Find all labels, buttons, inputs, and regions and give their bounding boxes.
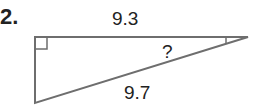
top-side-label: 9.3 (112, 8, 138, 30)
hypotenuse-label: 9.7 (124, 82, 150, 104)
right-angle-marker (35, 37, 47, 49)
unknown-angle-label: ? (162, 41, 173, 63)
